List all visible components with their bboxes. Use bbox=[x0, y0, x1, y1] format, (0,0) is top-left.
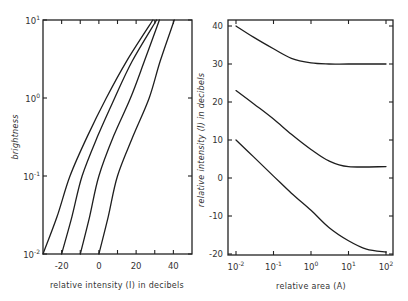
right-x-tick-label: 101 bbox=[341, 260, 356, 272]
left-y-axis-label: brightness bbox=[11, 114, 20, 159]
right-y-tick-label: 40 bbox=[212, 21, 223, 31]
left-y-tick-label: 101 bbox=[25, 14, 40, 26]
right-x-tick-label: 102 bbox=[379, 260, 394, 272]
left-chart-frame bbox=[43, 20, 192, 254]
right-x-tick-label: 100 bbox=[304, 260, 319, 272]
right-y-tick-label: 20 bbox=[212, 97, 223, 107]
left-x-tick-label: -20 bbox=[55, 261, 69, 271]
right-y-tick-label: 0 bbox=[218, 173, 223, 183]
figure: -2002040 10-210-1100101 relative intensi… bbox=[0, 0, 408, 301]
right-y-tick-labels: -20-10010203040 bbox=[209, 21, 223, 259]
right-curve-2 bbox=[236, 91, 386, 167]
right-y-tick-label: -20 bbox=[209, 249, 223, 259]
right-chart-panel: 10-210-1100101102 -20-10010203040 relati… bbox=[197, 20, 394, 291]
left-chart-panel: -2002040 10-210-1100101 relative intensi… bbox=[11, 14, 192, 290]
left-y-tick-label: 10-1 bbox=[23, 170, 40, 182]
left-chart-curves bbox=[43, 20, 174, 254]
right-y-tick-label: 10 bbox=[212, 135, 223, 145]
right-y-tick-label: 30 bbox=[212, 59, 223, 69]
right-x-tick-labels: 10-210-1100101102 bbox=[228, 260, 394, 272]
left-x-tick-label: 20 bbox=[131, 261, 142, 271]
right-x-tick-label: 10-1 bbox=[265, 260, 282, 272]
left-y-tick-labels: 10-210-1100101 bbox=[23, 14, 40, 260]
right-y-tick-label: -10 bbox=[209, 211, 223, 221]
right-chart-curves bbox=[236, 26, 386, 252]
left-y-tick-label: 10-2 bbox=[23, 248, 40, 260]
right-x-tick-label: 10-2 bbox=[228, 260, 245, 272]
right-curve-1 bbox=[236, 26, 386, 64]
left-x-tick-label: 0 bbox=[96, 261, 101, 271]
left-curve-2 bbox=[62, 20, 157, 254]
left-chart-ticks bbox=[43, 20, 192, 254]
left-curve-4 bbox=[99, 20, 174, 254]
right-chart-frame bbox=[228, 20, 393, 255]
left-x-axis-label: relative intensity (I) in decibels bbox=[50, 281, 184, 290]
right-chart-ticks bbox=[228, 20, 393, 255]
right-curve-3 bbox=[236, 140, 386, 252]
right-y-axis-label: relative intensity (I) in decibels bbox=[197, 73, 206, 207]
left-x-tick-label: 40 bbox=[168, 261, 179, 271]
right-x-axis-label: relative area (A) bbox=[276, 282, 346, 291]
left-curve-3 bbox=[80, 20, 159, 254]
left-y-tick-label: 100 bbox=[25, 92, 40, 104]
left-x-tick-labels: -2002040 bbox=[55, 261, 179, 271]
